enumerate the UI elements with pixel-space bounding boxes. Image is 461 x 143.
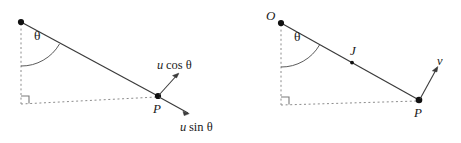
right-trajectory-line — [281, 23, 419, 100]
left-horizontal-dashed-line — [21, 97, 157, 104]
left-u-sin-theta-label: u sin θ — [180, 120, 213, 134]
left-u-cos-theta-label: u cos θ — [157, 58, 192, 72]
left-u-sin-function: sin θ — [189, 120, 213, 134]
left-panel: θ P u cos θ u sin θ — [18, 19, 213, 134]
right-angle-arc — [281, 45, 320, 67]
right-horizontal-dashed-line — [281, 101, 418, 105]
right-point-j-label: J — [350, 43, 357, 58]
left-origin-point — [18, 19, 24, 25]
right-origin-label: O — [266, 8, 276, 23]
figure-container: θ P u cos θ u sin θ — [0, 0, 461, 143]
left-u-cos-symbol: u — [157, 58, 163, 72]
left-theta-label: θ — [34, 28, 40, 43]
right-point-j — [350, 61, 354, 65]
right-panel: O θ J P v — [266, 8, 443, 120]
right-theta-label: θ — [294, 29, 300, 44]
left-u-cos-theta-arrow — [159, 73, 179, 95]
right-origin-point — [278, 20, 284, 26]
left-u-sin-theta-arrow — [159, 97, 189, 116]
left-trajectory-line — [21, 22, 158, 96]
left-point-p-label: P — [152, 101, 161, 116]
right-v-arrow — [420, 67, 438, 99]
left-angle-arc — [21, 44, 60, 66]
right-right-angle-marker — [281, 97, 289, 105]
left-right-angle-marker — [21, 96, 29, 104]
right-v-label: v — [437, 54, 443, 68]
right-point-p-label: P — [413, 105, 422, 120]
left-u-sin-symbol: u — [180, 120, 186, 134]
left-u-cos-function: cos θ — [166, 58, 192, 72]
geometry-figure: θ P u cos θ u sin θ — [0, 0, 461, 143]
